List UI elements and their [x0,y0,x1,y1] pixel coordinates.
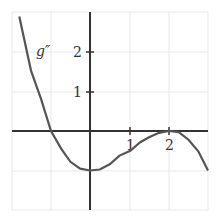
y-tick-label-1: 1 [73,84,82,100]
curve-g-double-prime [19,17,208,171]
x-tick-label-2: 2 [165,137,174,153]
y-tick-label-2: 2 [73,44,82,60]
ticks [86,52,169,135]
curve-label: g″ [36,43,51,59]
graph: 1 2 1 2 g″ [0,0,218,222]
grid [12,12,208,210]
